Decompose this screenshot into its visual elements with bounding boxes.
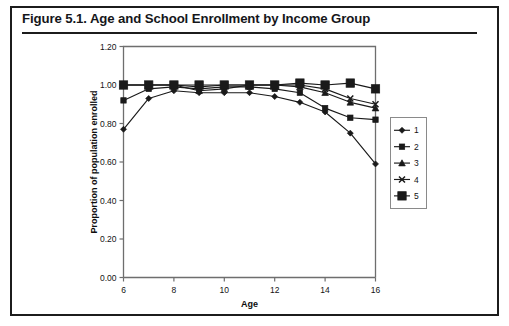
x-axis-tick-label: 14 [320, 285, 330, 295]
data-point-marker [220, 81, 228, 89]
x-axis-tick-label: 16 [371, 285, 381, 295]
legend-label: 1 [414, 125, 419, 135]
legend-label: 2 [414, 142, 419, 152]
data-point-marker [247, 90, 253, 96]
chart-plot-area: 0.000.200.400.600.801.001.206810121416Ag… [0, 0, 509, 326]
legend-label: 3 [414, 158, 419, 168]
data-point-marker [119, 81, 127, 89]
series-2 [121, 84, 378, 122]
x-axis-title: Age [241, 299, 258, 309]
series-1 [121, 88, 379, 167]
y-axis-tick-label: 0.20 [100, 234, 117, 244]
data-point-marker [346, 79, 354, 87]
figure-container: Figure 5.1. Age and School Enrollment by… [0, 0, 509, 326]
series-line [124, 91, 376, 164]
x-axis-tick-label: 6 [121, 285, 126, 295]
data-point-marker [399, 144, 404, 149]
y-axis-tick-label: 0.80 [100, 119, 117, 129]
data-point-marker [297, 99, 303, 105]
data-point-marker [321, 81, 329, 89]
data-point-marker [272, 94, 278, 100]
data-point-marker [371, 85, 379, 93]
data-point-marker [297, 90, 302, 95]
y-axis-tick-label: 0.00 [100, 273, 117, 283]
y-axis-title: Proportion of population enrolled [89, 91, 99, 234]
data-point-marker [170, 81, 178, 89]
y-axis-tick-label: 0.60 [100, 157, 117, 167]
data-point-marker [121, 98, 126, 103]
x-axis-tick-label: 10 [220, 285, 230, 295]
data-point-marker [373, 117, 378, 122]
data-point-marker [296, 79, 304, 87]
legend-label: 5 [414, 191, 419, 201]
legend-label: 4 [414, 175, 419, 185]
y-axis-tick-label: 0.40 [100, 196, 117, 206]
data-point-marker [195, 81, 203, 89]
x-axis-tick-label: 12 [270, 285, 280, 295]
data-point-marker [145, 81, 153, 89]
line-chart: 0.000.200.400.600.801.001.206810121416Ag… [0, 0, 509, 326]
data-point-marker [322, 105, 327, 110]
data-point-marker [398, 192, 406, 200]
data-point-marker [245, 81, 253, 89]
y-axis-tick-label: 1.20 [100, 42, 117, 52]
data-point-marker [348, 115, 353, 120]
legend-item-5[interactable]: 5 [394, 191, 419, 201]
data-point-marker [271, 81, 279, 89]
y-axis-tick-label: 1.00 [100, 80, 117, 90]
x-axis-tick-label: 8 [172, 285, 177, 295]
